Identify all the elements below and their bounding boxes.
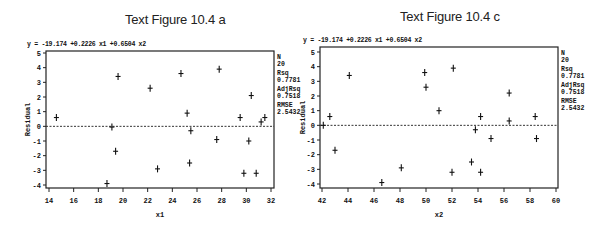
x-tick-label: 44 [344,197,352,205]
plot-frame [320,47,558,188]
data-point-plus-marker [424,84,429,91]
stat-value: 20 [277,61,285,68]
data-point-plus-marker [249,92,254,99]
x-tick-label: 52 [448,197,456,205]
x-tick-label: 54 [474,197,482,205]
x-axis-label: x2 [435,211,443,219]
data-point-plus-marker [116,73,121,80]
data-point-plus-marker [333,147,338,154]
y-tick-label: 3 [37,79,41,87]
x-tick-label: 20 [119,197,127,205]
x-tick-label: 22 [143,197,151,205]
data-point-plus-marker [254,170,259,177]
stat-label: Rsq [561,66,573,73]
y-tick-label: -3 [33,167,41,175]
y-tick-label: 5 [311,49,315,57]
data-point-plus-marker [109,124,114,131]
y-tick-label: -2 [307,151,315,159]
x-tick-label: 50 [422,197,430,205]
data-point-plus-marker [437,107,442,114]
data-point-plus-marker [399,164,404,171]
data-point-plus-marker [507,90,512,97]
x-tick-label: 30 [242,197,250,205]
x-tick-label: 42 [318,197,326,205]
x-tick-label: 28 [217,197,225,205]
x-axis-label: x1 [156,211,164,219]
stat-label: AdjRsq [561,82,585,89]
stat-value: 2.5432 [561,105,585,112]
y-axis-label: Residual [299,101,307,135]
stat-value: 0.7518 [561,89,585,96]
charts-canvas: 543210-1-2-3-414161820222426283032x1Resi… [0,0,606,232]
data-point-plus-marker [450,169,455,176]
x-tick-label: 24 [168,197,176,205]
data-point-plus-marker [347,72,352,79]
data-point-plus-marker [54,114,59,121]
stat-value: 0.7781 [277,77,301,84]
data-point-plus-marker [155,165,160,172]
scatter-plot-c: 543210-1-2-3-442444648505254565860x2Resi… [299,47,585,219]
data-point-plus-marker [262,114,267,121]
y-tick-label: -1 [307,137,315,145]
data-point-plus-marker [148,85,153,92]
data-point-plus-marker [238,114,243,121]
stat-label: N [561,50,565,57]
x-tick-label: 46 [370,197,378,205]
x-tick-label: 18 [94,197,102,205]
data-point-plus-marker [469,159,474,166]
x-tick-label: 58 [526,197,534,205]
data-point-plus-marker [533,113,538,120]
data-point-plus-marker [178,70,183,77]
y-tick-label: 0 [37,123,41,131]
data-point-plus-marker [187,160,192,167]
data-point-plus-marker [241,170,246,177]
data-point-plus-marker [246,138,251,145]
y-tick-label: 2 [37,94,41,102]
data-point-plus-marker [217,66,222,73]
y-tick-label: -3 [307,166,315,174]
data-point-plus-marker [473,126,478,133]
data-point-plus-marker [478,169,483,176]
x-tick-label: 56 [500,197,508,205]
data-point-plus-marker [507,117,512,124]
data-point-plus-marker [321,122,326,129]
data-point-plus-marker [478,113,483,120]
data-point-plus-marker [188,127,193,134]
stat-value: 0.7518 [277,93,301,100]
scatter-plot-a: 543210-1-2-3-414161820222426283032x1Resi… [24,50,301,220]
data-point-plus-marker [489,135,494,142]
stat-label: Rsq [277,70,289,77]
y-tick-label: 1 [311,107,315,115]
data-point-plus-marker [327,113,332,120]
y-tick-label: 4 [311,63,315,71]
stat-value: 0.7781 [561,73,585,80]
y-tick-label: 2 [311,93,315,101]
data-point-plus-marker [534,135,539,142]
stat-label: RMSE [561,98,577,105]
stat-label: N [277,54,281,61]
x-tick-label: 26 [193,197,201,205]
data-point-plus-marker [422,69,427,76]
data-point-plus-marker [259,118,264,125]
y-tick-label: 5 [37,50,41,58]
data-point-plus-marker [379,179,384,186]
x-tick-label: 60 [552,197,560,205]
stat-label: AdjRsq [277,86,301,93]
y-tick-label: 4 [37,64,41,72]
y-tick-label: 1 [37,108,41,116]
x-tick-label: 32 [267,197,275,205]
x-tick-label: 16 [69,197,77,205]
y-tick-label: 3 [311,78,315,86]
data-point-plus-marker [451,65,456,72]
y-axis-label: Residual [24,103,32,137]
y-tick-label: -4 [33,182,41,190]
y-tick-label: -2 [33,152,41,160]
y-tick-label: -1 [33,138,41,146]
stat-value: 2.5432 [277,109,301,116]
data-point-plus-marker [113,148,118,155]
data-point-plus-marker [185,110,190,117]
x-tick-label: 48 [396,197,404,205]
data-point-plus-marker [214,136,219,143]
y-tick-label: 0 [311,122,315,130]
stat-label: RMSE [277,102,293,109]
